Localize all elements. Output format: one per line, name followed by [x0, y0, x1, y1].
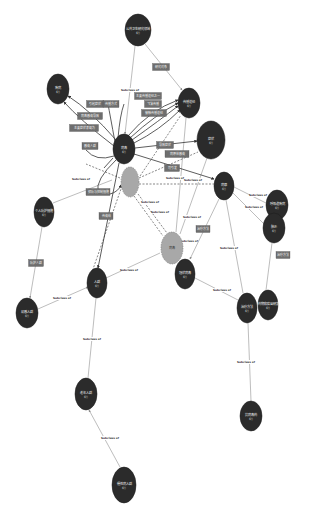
relation-label[interactable]: 主要传播途径之一 — [135, 93, 162, 100]
graph-node-n15[interactable]: 治疗方法概念 — [237, 293, 257, 323]
node-label: 个人防护措施 — [35, 208, 54, 213]
relation-label[interactable]: 导致症状 — [157, 142, 174, 149]
knowledge-graph-canvas[interactable]: 研究对象引起症状传播方式主要传播途径之一飞沫传播接触传播途径病毒感染导致主要症状… — [0, 0, 324, 517]
subclass-label-text: Subclass of — [245, 205, 264, 209]
subclass-label-text: Subclass of — [220, 246, 239, 250]
node-label: 慢性病人群 — [117, 481, 133, 486]
relation-label[interactable]: 传播方式 — [103, 101, 119, 108]
edge-n4-n3-b[interactable] — [130, 103, 178, 138]
subclass-label-text: Subclass of — [151, 210, 170, 214]
node-label: 病毒 — [121, 145, 128, 150]
subclass-label-text: Subclass of — [183, 215, 202, 219]
relation-label[interactable]: 传染给 — [99, 213, 113, 220]
relation-label-text: 治疗方法 — [277, 252, 289, 257]
graph-node-n4[interactable]: 病毒概念 — [113, 134, 135, 164]
graph-node-n3[interactable]: 传播途径概念 — [178, 88, 200, 118]
graph-node-n14[interactable]: 易感人群概念 — [16, 298, 38, 328]
edge-n4-box2[interactable] — [118, 104, 124, 138]
node-label: 症状 — [208, 136, 215, 141]
relation-label-text: 主要症状表现为 — [74, 125, 95, 130]
relation-label-text: 预防与控制措施 — [88, 189, 109, 194]
relation-label[interactable]: 研究对象 — [153, 64, 170, 71]
subclass-label: Subclass of — [180, 239, 199, 243]
relation-label[interactable]: 主要症状表现为 — [70, 125, 99, 132]
subclass-label: Subclass of — [249, 193, 268, 197]
relation-label-text: 飞沫传播 — [147, 101, 159, 106]
subclass-label-text: Subclass of — [180, 239, 199, 243]
relation-label[interactable]: 飞沫传播 — [145, 101, 162, 108]
graph-node-n16[interactable]: 药物和疫苗研发概念 — [258, 290, 280, 320]
subclass-label-text: Subclass of — [53, 296, 72, 300]
subclass-label: Subclass of — [72, 177, 91, 181]
subclass-label-text: Subclass of — [249, 193, 268, 197]
node-label: 冠状病毒 — [179, 270, 192, 275]
subclass-label: Subclass of — [220, 246, 239, 250]
node-label: 肺炎 — [271, 224, 278, 229]
relation-label[interactable]: 感染人群 — [82, 143, 98, 150]
graph-node-n17[interactable]: 老年人群概念 — [75, 378, 97, 410]
node-label: 治疗方法 — [241, 304, 253, 309]
subclass-label: Subclass of — [166, 176, 185, 180]
graph-node-n2[interactable]: 疾病概念 — [47, 74, 69, 104]
subclass-label-text: Subclass of — [83, 337, 102, 341]
edge-n13-n11[interactable] — [106, 253, 160, 278]
subclass-label: Subclass of — [237, 360, 256, 364]
subclass-label: Subclass of — [121, 88, 140, 92]
relation-label-text: 研究对象 — [155, 64, 167, 69]
edge-n4-box[interactable] — [108, 104, 115, 142]
node-label: 公共卫生研究领域 — [126, 26, 151, 31]
edge-n4-dash[interactable] — [104, 158, 113, 168]
graph-node-n12[interactable]: 冠状病毒概念 — [175, 259, 195, 289]
relation-label-text: 导致症状 — [159, 142, 171, 147]
subclass-label-text: Subclass of — [72, 177, 91, 181]
edge-n10-n16[interactable] — [266, 243, 272, 290]
subclass-label: Subclass of — [53, 296, 72, 300]
subclass-label-text: Subclass of — [121, 88, 140, 92]
graph-node-n7[interactable]: 病原概念 — [214, 172, 234, 200]
node-label: 病原 — [221, 182, 227, 187]
graph-node-n10[interactable]: 肺炎概念 — [263, 213, 285, 243]
node-label: 老年人群 — [80, 390, 93, 395]
subclass-label: Subclass of — [83, 337, 102, 341]
relation-label-text: 感染人群 — [84, 143, 96, 148]
subclass-label: Subclass of — [184, 178, 203, 182]
concept-node-gray[interactable] — [121, 167, 139, 197]
relation-label[interactable]: 接触传播途径 — [142, 110, 167, 117]
subclass-label-text: Subclass of — [101, 436, 120, 440]
relation-label[interactable]: 防护人群 — [29, 260, 44, 267]
node-label: 易感人群 — [21, 309, 34, 314]
node-label: 抗病毒药 — [245, 412, 257, 417]
edge-n4-loop[interactable] — [86, 150, 114, 158]
node-label: 疾病 — [55, 85, 62, 90]
relation-label[interactable]: 治疗方法 — [196, 226, 210, 233]
relation-label[interactable]: 引起症状 — [87, 101, 104, 108]
subclass-label-text: Subclass of — [120, 268, 139, 272]
subclass-label-text: Subclass of — [141, 200, 160, 204]
relation-label-text: 传染给 — [102, 213, 111, 218]
graph-node-n1[interactable]: 公共卫生研究领域概念 — [125, 14, 151, 46]
node-label: 药物和疫苗研发 — [258, 301, 280, 306]
node-label: 呼吸道疾病 — [270, 201, 286, 206]
edge-n4-n2-b[interactable] — [64, 102, 114, 146]
graph-node-n11[interactable]: 病毒 — [161, 232, 183, 264]
relation-label-text: 可引发 — [168, 165, 177, 170]
edge-dashed-n6-n13[interactable] — [92, 186, 122, 272]
subclass-label: Subclass of — [183, 215, 202, 219]
subclass-label: Subclass of — [101, 436, 120, 440]
graph-node-n18[interactable]: 抗病毒药概念 — [240, 401, 262, 431]
relation-label-text: 主要传播途径之一 — [136, 93, 160, 98]
relation-label[interactable]: 可引发 — [165, 165, 180, 172]
node-label: 病毒 — [169, 245, 176, 250]
graph-node-n5[interactable]: 症状概念 — [197, 121, 225, 159]
graph-node-n6[interactable] — [121, 167, 139, 197]
graph-node-n13[interactable]: 人群概念 — [87, 268, 107, 298]
relation-label[interactable]: 病毒感染导致 — [78, 113, 103, 120]
edge-dashed-n6-left[interactable] — [86, 164, 120, 178]
relation-label-text: 病毒感染导致 — [81, 113, 99, 118]
graph-node-n8[interactable]: 个人防护措施概念 — [34, 197, 54, 227]
relation-label[interactable]: 病原体感染 — [165, 151, 189, 158]
relation-label[interactable]: 治疗方法 — [276, 252, 290, 259]
graph-node-n19[interactable]: 慢性病人群概念 — [112, 467, 136, 503]
nodes-layer: 公共卫生研究领域概念疾病概念传播途径概念病毒概念症状概念病原概念个人防护措施概念… — [16, 14, 288, 503]
relation-label[interactable]: 预防与控制措施 — [86, 189, 110, 196]
